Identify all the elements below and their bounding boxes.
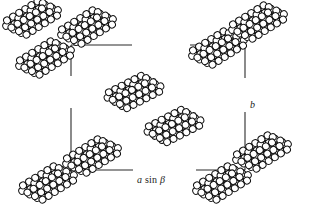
molecule-top-left-outside (0, 0, 65, 46)
molecule-center-lower (141, 100, 207, 153)
b-axis-letter: b (250, 99, 255, 110)
b-axis-label: b (250, 99, 255, 110)
molecule-center-upper (101, 66, 167, 119)
a-axis-label: a sin β (137, 174, 165, 185)
a-axis-sin: sin (145, 174, 157, 185)
crystal-packing-figure: a sin β b (0, 0, 310, 221)
a-axis-beta: β (160, 174, 165, 185)
packing-diagram-canvas (0, 0, 310, 221)
